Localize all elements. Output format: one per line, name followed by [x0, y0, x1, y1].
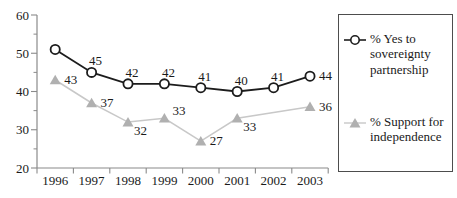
data-point-label: 41 [198, 69, 211, 84]
legend-circle-marker [351, 36, 359, 44]
data-point-circle [51, 45, 60, 54]
y-tick-label: 20 [16, 161, 29, 176]
chart-container: 2030405060199619971998199920002001200220… [0, 0, 457, 198]
legend-entry-independence: % Support for independence [344, 114, 448, 145]
data-point-triangle [159, 113, 170, 123]
data-point-circle [305, 72, 314, 81]
data-point-label: 27 [210, 133, 224, 148]
data-point-triangle [305, 102, 316, 112]
data-point-label: 33 [243, 119, 256, 134]
x-tick-label: 1997 [79, 173, 106, 188]
y-tick-label: 60 [16, 8, 29, 23]
data-point-label: 41 [271, 69, 284, 84]
legend: % Yes to sovereignty partnership % Suppo… [338, 14, 453, 172]
x-tick-label: 1998 [115, 173, 141, 188]
legend-label-sovereignty: % Yes to sovereignty partnership [370, 31, 448, 77]
data-point-label: 42 [126, 65, 139, 80]
data-point-label: 40 [235, 73, 248, 88]
y-tick-label: 30 [16, 122, 29, 137]
open-circle-line-icon [344, 34, 366, 46]
x-tick-label: 1996 [42, 173, 69, 188]
data-point-circle [160, 79, 169, 88]
x-tick-label: 2001 [224, 173, 250, 188]
data-point-label: 33 [172, 103, 185, 118]
data-point-label: 42 [162, 65, 175, 80]
data-point-label: 43 [64, 72, 77, 87]
data-point-triangle [86, 98, 97, 108]
filled-triangle-line-icon [344, 117, 366, 129]
y-tick-label: 50 [16, 46, 29, 61]
data-point-circle [233, 87, 242, 96]
data-point-label: 36 [319, 99, 333, 114]
x-tick-label: 2000 [188, 173, 214, 188]
data-point-circle [196, 83, 205, 92]
legend-label-independence: % Support for independence [370, 114, 448, 145]
data-point-triangle [50, 75, 61, 85]
data-point-label: 37 [101, 95, 115, 110]
y-tick-label: 40 [16, 84, 29, 99]
x-tick-label: 1999 [151, 173, 177, 188]
data-point-label: 45 [89, 53, 102, 68]
data-point-circle [87, 68, 96, 77]
data-point-circle [123, 79, 132, 88]
data-point-circle [269, 83, 278, 92]
x-tick-label: 2003 [297, 173, 323, 188]
data-point-label: 32 [134, 123, 147, 138]
data-point-triangle [195, 136, 206, 146]
legend-entry-sovereignty: % Yes to sovereignty partnership [344, 31, 448, 77]
x-tick-label: 2002 [261, 173, 287, 188]
data-point-label: 44 [319, 68, 333, 83]
